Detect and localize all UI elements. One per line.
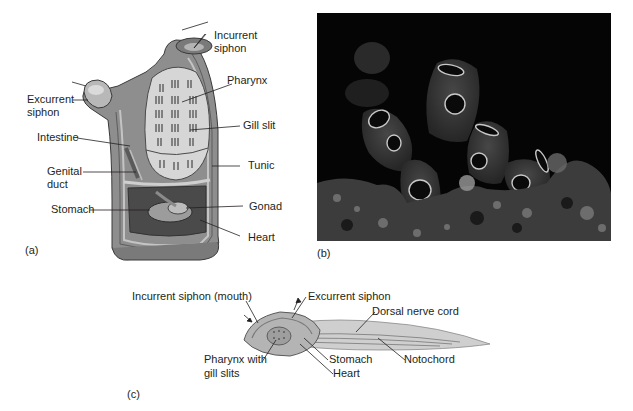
tunicate-larva-illustration	[0, 0, 633, 411]
label-excurrent-siphon: Excurrent siphon	[308, 290, 391, 303]
label-heart-larva: Heart	[333, 367, 360, 380]
label-pharynx-gill-slits-line1: Pharynx with	[204, 353, 267, 366]
label-stomach-larva: Stomach	[329, 353, 372, 366]
label-pharynx-gill-slits-line2: gill slits	[204, 367, 239, 380]
label-dorsal-nerve-cord: Dorsal nerve cord	[372, 305, 459, 318]
panel-c-tag: (c)	[127, 388, 140, 401]
label-notochord: Notochord	[404, 353, 455, 366]
label-incurrent-siphon-mouth: Incurrent siphon (mouth)	[132, 290, 252, 303]
